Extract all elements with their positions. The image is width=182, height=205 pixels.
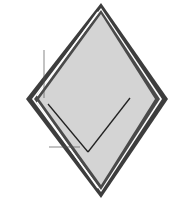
- panel: [39, 14, 155, 185]
- telegraph-diagram: [0, 0, 182, 205]
